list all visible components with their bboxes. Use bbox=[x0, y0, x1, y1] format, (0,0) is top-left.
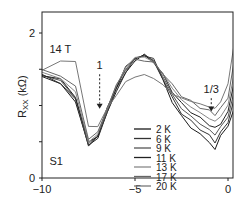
x-tick-label: −5 bbox=[129, 183, 142, 195]
annotation-label: 14 T bbox=[49, 43, 71, 55]
series-line bbox=[42, 54, 237, 149]
y-axis-label-sub: XX bbox=[21, 99, 30, 110]
legend-label: 20 K bbox=[156, 181, 177, 192]
arrow-head-icon bbox=[208, 107, 214, 112]
y-tick-label: 2 bbox=[29, 27, 35, 39]
y-tick-label: 0 bbox=[29, 172, 35, 184]
chart: −10−5002 14 TS111/3 2 K6 K9 K11 K13 K17 … bbox=[0, 0, 248, 205]
x-tick-label: −10 bbox=[33, 183, 52, 195]
annotation-label: 1 bbox=[97, 59, 103, 71]
series-line bbox=[42, 56, 237, 146]
annotation-label: 1/3 bbox=[204, 83, 219, 95]
x-tick-label: 0 bbox=[225, 183, 231, 195]
series-line bbox=[42, 19, 237, 127]
y-axis-label: RXX (kΩ) bbox=[16, 75, 30, 118]
y-axis-label-unit: (kΩ) bbox=[16, 75, 28, 99]
series-line bbox=[42, 56, 237, 144]
annotation-label: S1 bbox=[49, 155, 62, 167]
legend: 2 K6 K9 K11 K13 K17 K20 K bbox=[134, 124, 177, 192]
arrow-head-icon bbox=[97, 104, 103, 109]
